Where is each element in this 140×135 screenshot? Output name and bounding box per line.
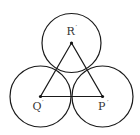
label-r: R [67,25,76,38]
triangle-pqr [41,43,103,97]
label-p-prime: ′ [107,99,109,107]
point-r [70,41,73,44]
label-q-prime: ′ [42,99,44,107]
label-p: P [98,100,106,113]
point-q [39,95,42,98]
label-r-prime: ′ [76,24,78,32]
three-circles-diagram: R ′ Q ′ P ′ [0,0,140,135]
point-p [101,95,104,98]
diagram-canvas: R ′ Q ′ P ′ [0,0,140,135]
label-q: Q [33,100,42,113]
